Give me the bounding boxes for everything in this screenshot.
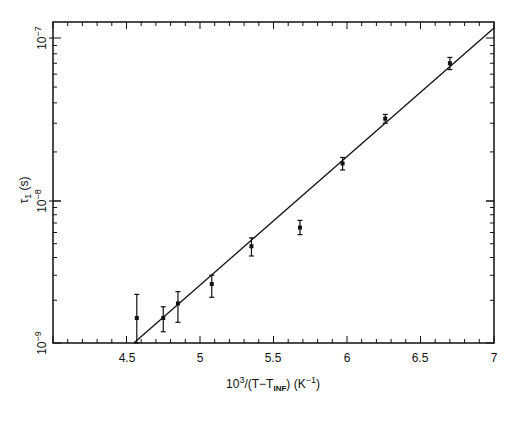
x-axis-label: 103/(T−TINF) (K−1) [226,375,320,393]
marker [249,244,253,248]
marker [341,161,345,165]
data-point [161,307,166,332]
data-point [209,275,214,297]
marker [176,301,180,305]
marker [135,316,139,320]
y-tick-label-1e-8: 10−8 [33,189,49,213]
plot-border [53,22,494,343]
marker [210,282,214,286]
y-tick-label-1e-9: 10−9 [33,331,49,355]
fit-line [134,28,494,343]
x-tick-label: 7 [491,351,498,365]
x-tick-labels: 4.5 5 5.5 6 6.5 7 [119,351,498,365]
marker [383,117,387,121]
x-tick-label: 6 [344,351,351,365]
data-point [175,292,180,323]
marker [161,316,165,320]
data-point [249,238,254,256]
x-tick-label: 5 [197,351,204,365]
plot-frame [53,22,494,343]
data-point [297,220,302,234]
y-tick-labels: 10−7 10−8 10−9 [33,26,49,355]
y-axis-label: τ1 (s) [17,176,33,203]
scatter-chart: 4.5 5 5.5 6 6.5 7 10−7 10−8 10−9 τ1 (s) … [0,0,520,426]
marker [448,61,452,65]
axis-ticks [49,22,494,343]
x-tick-label: 6.5 [412,351,429,365]
y-tick-label-1e-7: 10−7 [33,26,49,50]
marker [298,226,302,230]
x-tick-label: 4.5 [119,351,136,365]
x-tick-label: 5.5 [265,351,282,365]
data-point [134,294,139,343]
